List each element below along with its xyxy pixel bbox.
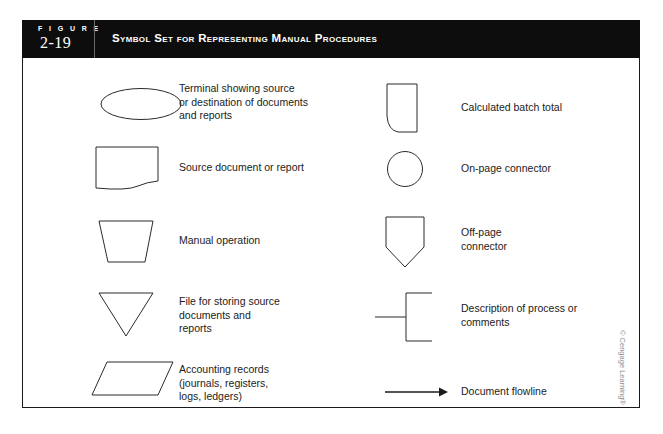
document-icon xyxy=(91,143,191,193)
ellipse-terminal-icon xyxy=(91,82,191,126)
arrow-flowline-icon xyxy=(353,378,453,404)
right-label-4: Document flowline xyxy=(461,385,641,399)
right-label-2: Off-page connector xyxy=(461,226,641,253)
calculated-batch-total-icon xyxy=(379,78,449,136)
right-label-1: On-page connector xyxy=(461,162,641,176)
figure-header-bar: F I G U R E 2-19 Symbol Set for Represen… xyxy=(22,20,640,58)
left-label-2: Manual operation xyxy=(179,234,354,248)
page-title: Symbol Set for Representing Manual Proce… xyxy=(112,32,377,44)
left-label-4: Accounting records (journals, registers,… xyxy=(179,363,354,404)
header-divider xyxy=(94,20,95,58)
copyright-notice: © Cengage Learning® xyxy=(618,330,627,430)
triangle-file-icon xyxy=(91,288,191,340)
trapezoid-manual-operation-icon xyxy=(91,216,191,266)
bracket-annotation-icon xyxy=(353,286,453,348)
pentagon-off-page-connector-icon xyxy=(379,211,449,273)
left-label-1: Source document or report xyxy=(179,161,354,175)
circle-on-page-connector-icon xyxy=(379,146,449,190)
figure-body: Terminal showing source or destination o… xyxy=(22,58,640,408)
right-label-3: Description of process or comments xyxy=(461,302,641,329)
figure-container: F I G U R E 2-19 Symbol Set for Represen… xyxy=(0,0,663,434)
figure-number-label: 2-19 xyxy=(40,34,71,52)
figure-word-label: F I G U R E xyxy=(38,25,101,32)
right-label-0: Calculated batch total xyxy=(461,101,641,115)
left-label-3: File for storing source documents and re… xyxy=(179,295,354,336)
left-label-0: Terminal showing source or destination o… xyxy=(179,82,354,123)
